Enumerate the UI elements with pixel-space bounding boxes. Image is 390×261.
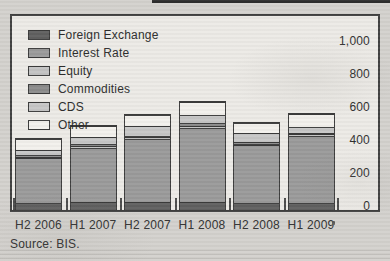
scan-streaks xyxy=(0,250,390,259)
bar-segment-cds xyxy=(234,133,279,142)
legend-row-commodities: Commodities xyxy=(28,80,159,98)
bar-segment-interest-rate xyxy=(180,128,225,202)
y-axis-label-200: 200 xyxy=(320,166,370,180)
scan-speck xyxy=(332,221,335,225)
chart-legend: Foreign ExchangeInterest RateEquityCommo… xyxy=(28,26,159,134)
legend-label: CDS xyxy=(58,100,84,114)
x-axis-tick xyxy=(229,198,231,210)
bar-segment-other xyxy=(180,102,225,115)
legend-label: Equity xyxy=(58,64,93,78)
legend-swatch-equity xyxy=(28,66,50,76)
legend-swatch-foreign-exchange xyxy=(28,30,50,40)
bar-segment-other xyxy=(234,123,279,133)
legend-label: Foreign Exchange xyxy=(58,28,159,42)
chart-frame: 02004006008001,000 Foreign ExchangeInter… xyxy=(10,14,380,212)
bar-h2-2008 xyxy=(233,122,280,210)
bar-segment-cds xyxy=(180,115,225,124)
bar-h1-2007 xyxy=(70,125,117,210)
bar-segment-other xyxy=(16,139,61,150)
scanned-chart-page: 02004006008001,000 Foreign ExchangeInter… xyxy=(0,0,390,261)
source-text: Source: BIS. xyxy=(10,237,80,251)
legend-label: Commodities xyxy=(58,82,130,96)
y-axis-label-400: 400 xyxy=(320,133,370,147)
x-axis-tick xyxy=(120,198,122,210)
bar-h1-2009 xyxy=(288,113,335,210)
y-axis-label-1000: 1,000 xyxy=(320,34,370,48)
bar-h2-2006 xyxy=(15,138,62,210)
bar-segment-foreign-exchange xyxy=(125,202,170,210)
bar-segment-cds xyxy=(71,137,116,144)
legend-swatch-other xyxy=(28,120,50,130)
legend-row-other: Other xyxy=(28,116,159,134)
bar-h1-2008 xyxy=(179,101,226,210)
legend-swatch-interest-rate xyxy=(28,48,50,58)
x-axis-tick xyxy=(66,198,68,210)
bar-segment-foreign-exchange xyxy=(16,203,61,210)
bar-segment-foreign-exchange xyxy=(234,203,279,210)
legend-swatch-cds xyxy=(28,102,50,112)
legend-label: Interest Rate xyxy=(58,46,129,60)
y-axis-label-800: 800 xyxy=(320,67,370,81)
bar-segment-interest-rate xyxy=(125,139,170,202)
bar-segment-foreign-exchange xyxy=(71,202,116,210)
bar-segment-interest-rate xyxy=(234,145,279,202)
x-axis-tick xyxy=(284,198,286,210)
scan-edge-strip xyxy=(152,0,390,3)
bar-segment-other xyxy=(289,114,334,127)
y-axis-label-0: 0 xyxy=(320,199,370,213)
legend-row-interest-rate: Interest Rate xyxy=(28,44,159,62)
legend-row-foreign-exchange: Foreign Exchange xyxy=(28,26,159,44)
x-axis-tick xyxy=(13,198,15,210)
legend-label: Other xyxy=(58,118,89,132)
x-axis-tick xyxy=(175,198,177,210)
bar-segment-interest-rate xyxy=(71,148,116,203)
bar-segment-foreign-exchange xyxy=(180,202,225,210)
legend-row-equity: Equity xyxy=(28,62,159,80)
y-axis-label-600: 600 xyxy=(320,100,370,114)
legend-swatch-commodities xyxy=(28,84,50,94)
bar-segment-interest-rate xyxy=(16,158,61,203)
legend-row-cds: CDS xyxy=(28,98,159,116)
